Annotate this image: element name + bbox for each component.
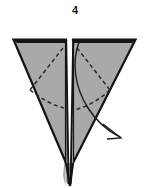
origami-diagram bbox=[0, 0, 150, 188]
origami-figure: 4 bbox=[0, 0, 150, 188]
